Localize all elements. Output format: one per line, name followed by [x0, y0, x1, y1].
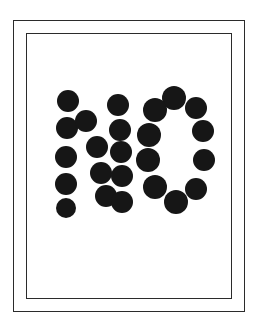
inner-frame-border: [26, 33, 232, 299]
artwork-card: [0, 0, 262, 332]
